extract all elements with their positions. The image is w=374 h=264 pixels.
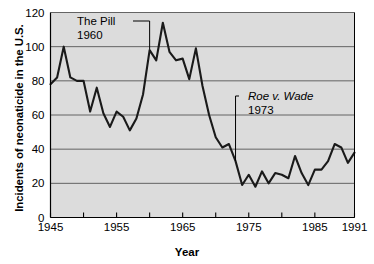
annotation-roe-year: 1973	[248, 104, 274, 116]
chart-figure: Incidents of neonaticide in the U.S. Yea…	[0, 0, 374, 264]
annotation-roe-label: Roe v. Wade	[248, 90, 313, 102]
annotation-pill-label: The Pill	[77, 15, 115, 27]
plot-area: The Pill 1960 Roe v. Wade 1973	[0, 0, 374, 264]
annotation-pill-year: 1960	[77, 29, 103, 41]
